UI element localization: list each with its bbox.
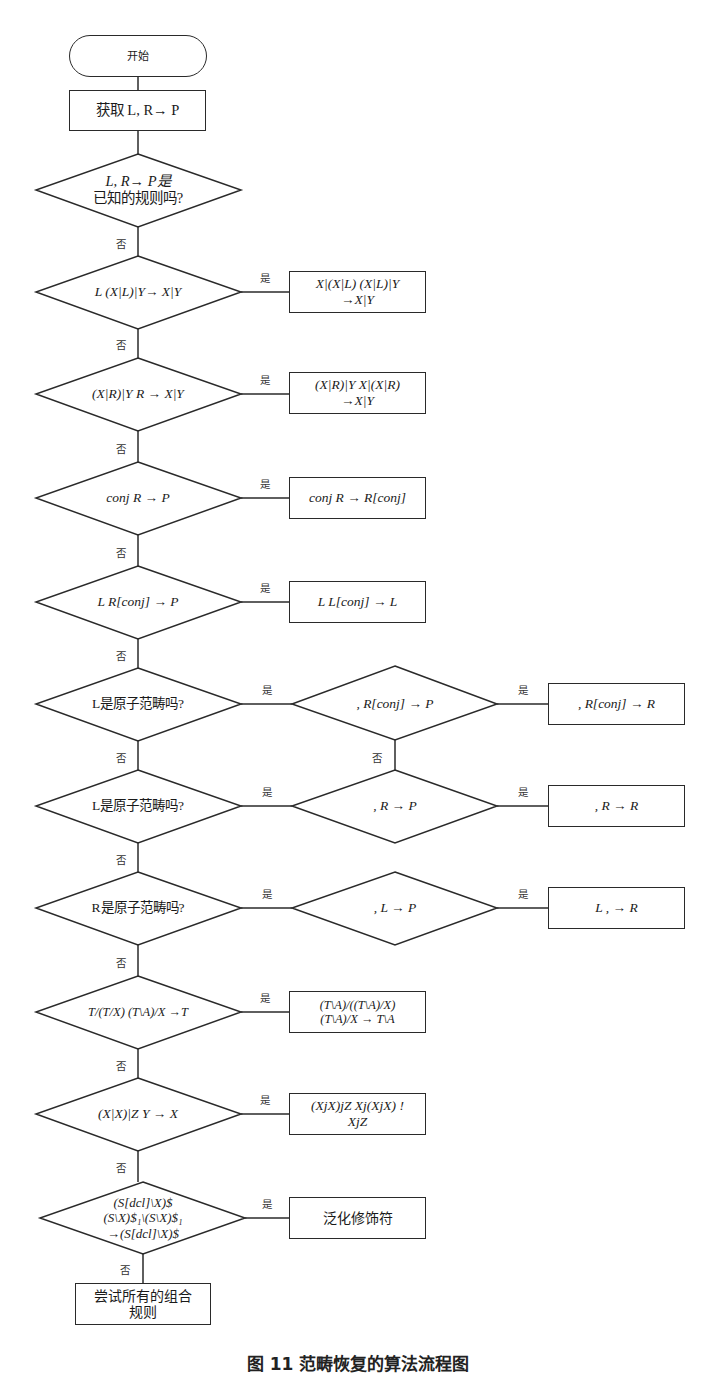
- result-8-line2: (T\A)/X → T\A: [320, 1012, 394, 1026]
- no-label: 否: [116, 852, 126, 867]
- yes-label: 是: [260, 372, 270, 387]
- result-box-2: (X|R)|Y X|(X|R) →X|Y: [289, 372, 426, 414]
- yes-label: 是: [260, 580, 270, 595]
- final-box: 尝试所有的组合 规则: [75, 1283, 211, 1325]
- yes-label: 是: [260, 990, 270, 1005]
- yes-label: 是: [262, 682, 272, 697]
- result-5-label: , R[conj] → R: [578, 696, 655, 712]
- no-label: 否: [116, 750, 126, 765]
- final-line2: 规则: [129, 1304, 157, 1320]
- no-label: 否: [116, 236, 126, 251]
- no-label: 否: [116, 337, 126, 352]
- decision-4-shape: [36, 566, 241, 639]
- decision-9-shape: [36, 1078, 241, 1151]
- result-2-line1: (X|R)|Y X|(X|R): [315, 377, 400, 393]
- yes-label: 是: [262, 886, 272, 901]
- result-box-1: X|(X|L) (X|L)|Y →X|Y: [289, 271, 426, 313]
- result-7-label: L , → R: [595, 900, 638, 916]
- result-6-label: , R → R: [595, 798, 639, 814]
- decision-7b-shape: [292, 872, 497, 945]
- result-box-4: L L[conj] → L: [289, 581, 426, 623]
- decision-5b-shape: [292, 666, 497, 740]
- get-rule-label: 获取 L, R→ P: [96, 102, 180, 119]
- no-label: 否: [120, 1262, 130, 1277]
- start-terminal: 开始: [69, 35, 207, 77]
- yes-label: 是: [518, 682, 528, 697]
- result-8-line1: (T\A)/((T\A)/X): [320, 998, 396, 1012]
- no-label: 否: [116, 648, 126, 663]
- start-label: 开始: [127, 50, 149, 63]
- result-10-label: 泛化修饰符: [323, 1210, 393, 1226]
- no-label: 否: [116, 441, 126, 456]
- result-box-10: 泛化修饰符: [289, 1197, 426, 1239]
- yes-label: 是: [260, 1092, 270, 1107]
- decision-6b-shape: [292, 770, 497, 843]
- no-label: 否: [372, 750, 382, 765]
- decision-5-shape: [36, 668, 241, 741]
- result-box-8: (T\A)/((T\A)/X) (T\A)/X → T\A: [289, 991, 426, 1033]
- decision-7-shape: [36, 872, 241, 945]
- yes-label: 是: [518, 886, 528, 901]
- figure-caption: 图 11 范畴恢复的算法流程图: [0, 1350, 716, 1375]
- decision-2-shape: [36, 358, 241, 431]
- decision-known-rule-shape: [36, 154, 241, 227]
- yes-label: 是: [262, 784, 272, 799]
- result-box-3: conj R → R[conj]: [289, 477, 426, 519]
- final-line1: 尝试所有的组合: [94, 1288, 192, 1304]
- result-9-line2: XjZ: [348, 1114, 368, 1130]
- decision-8-shape: [36, 976, 241, 1049]
- decision-10-shape: [40, 1182, 245, 1254]
- result-box-9: (XjX)jZ Xj(XjX) ! XjZ: [289, 1093, 426, 1135]
- decision-6-shape: [36, 770, 241, 843]
- result-1-line1: X|(X|L) (X|L)|Y: [316, 276, 399, 292]
- no-label: 否: [116, 955, 126, 970]
- result-9-line1: (XjX)jZ Xj(XjX) !: [311, 1098, 404, 1114]
- no-label: 否: [116, 1160, 126, 1175]
- yes-label: 是: [260, 476, 270, 491]
- result-1-line2: →X|Y: [341, 292, 374, 308]
- result-box-5: , R[conj] → R: [548, 683, 685, 725]
- no-label: 否: [116, 545, 126, 560]
- yes-label: 是: [262, 1196, 272, 1211]
- result-box-6: , R → R: [548, 785, 685, 827]
- result-4-label: L L[conj] → L: [318, 594, 398, 610]
- yes-label: 是: [260, 270, 270, 285]
- result-3-label: conj R → R[conj]: [309, 490, 406, 506]
- result-box-7: L , → R: [548, 887, 685, 929]
- decision-1-shape: [36, 256, 241, 329]
- result-2-line2: →X|Y: [341, 393, 374, 409]
- get-rule-box: 获取 L, R→ P: [69, 90, 206, 131]
- yes-label: 是: [518, 784, 528, 799]
- decision-3-shape: [36, 462, 241, 535]
- no-label: 否: [116, 1058, 126, 1073]
